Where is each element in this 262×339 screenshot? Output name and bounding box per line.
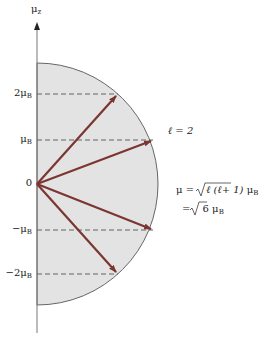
moment-semicircle bbox=[37, 63, 158, 305]
tick-label-neg-2muB: −2μB bbox=[0, 268, 32, 280]
axis-label-sub: z bbox=[38, 8, 42, 16]
axis-arrow-icon bbox=[34, 22, 40, 30]
tick-main: 0 bbox=[26, 177, 32, 188]
formula-line-1: μ = ℓ (ℓ+ 1) μB bbox=[176, 185, 258, 197]
tick-sub: B bbox=[27, 138, 32, 146]
angular-momentum-diagram bbox=[0, 0, 262, 339]
tick-label-muB: μB bbox=[0, 134, 32, 146]
formula-prefix: μ = bbox=[176, 184, 197, 195]
tick-label-2muB: 2μB bbox=[0, 88, 32, 100]
formula-line-2: = 6 μB bbox=[182, 204, 224, 216]
tick-label-neg-muB: −μB bbox=[0, 224, 32, 236]
tick-sub: B bbox=[27, 92, 32, 100]
tick-sub: B bbox=[27, 228, 32, 236]
quantum-number-label: ℓ = 2 bbox=[168, 126, 193, 136]
tick-label-zero: 0 bbox=[0, 178, 32, 188]
formula-suffix: μ bbox=[243, 184, 253, 195]
tick-main: 2μ bbox=[14, 87, 27, 98]
formula-suffix-sub: B bbox=[219, 208, 224, 216]
tick-sub: B bbox=[27, 272, 32, 280]
formula-radicand: ℓ (ℓ+ 1) bbox=[206, 184, 243, 195]
formula-suffix: μ bbox=[209, 203, 219, 214]
tick-main: −μ bbox=[12, 223, 27, 234]
axis-label: μz bbox=[31, 4, 41, 16]
tick-main: −2μ bbox=[6, 267, 27, 278]
formula-prefix: = bbox=[182, 203, 194, 214]
formula-suffix-sub: B bbox=[253, 189, 258, 197]
